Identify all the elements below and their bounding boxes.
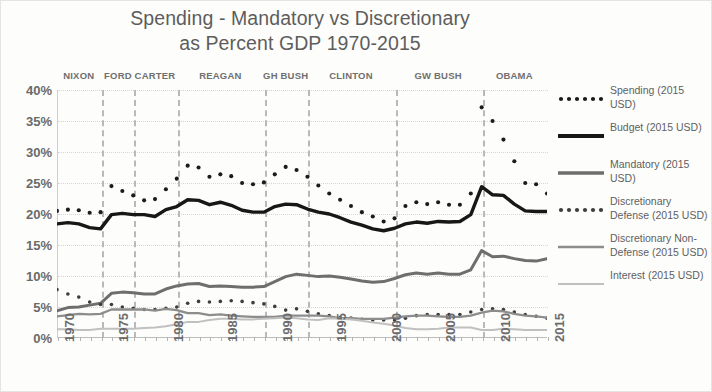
president-label: GW BUSH bbox=[414, 70, 461, 81]
chart-title-line2: as Percent GDP 1970-2015 bbox=[40, 31, 560, 56]
legend-marker-solid-midgray bbox=[558, 237, 604, 243]
legend-item[interactable]: Mandatory (2015 USD) bbox=[558, 158, 708, 186]
y-axis-tick-label: 20% bbox=[8, 208, 52, 221]
series-budget-2015-usd bbox=[57, 187, 547, 231]
y-axis-tick-label: 25% bbox=[8, 177, 52, 190]
president-label: OBAMA bbox=[496, 70, 533, 81]
legend-item[interactable]: Spending (2015 USD) bbox=[558, 84, 708, 112]
x-axis-tick-label: 1985 bbox=[225, 313, 240, 342]
legend-marker-dotted-gray bbox=[558, 200, 604, 206]
y-axis-tick-label: 0% bbox=[8, 332, 52, 345]
president-label: NIXON bbox=[63, 70, 94, 81]
x-axis-tick-label: 2005 bbox=[443, 313, 458, 342]
y-axis-tick-label: 15% bbox=[8, 239, 52, 252]
president-label: CLINTON bbox=[329, 70, 372, 81]
legend-item[interactable]: Budget (2015 USD) bbox=[558, 121, 708, 149]
legend-label: Spending (2015 USD) bbox=[610, 84, 708, 111]
y-axis-tick-label: 35% bbox=[8, 115, 52, 128]
legend-marker-dotted-black bbox=[558, 89, 604, 95]
legend-label: Budget (2015 USD) bbox=[610, 121, 708, 135]
chart-title-line1: Spending - Mandatory vs Discretionary bbox=[130, 7, 470, 29]
x-axis-tick-label: 1970 bbox=[62, 313, 77, 342]
chart-legend: Spending (2015 USD)Budget (2015 USD)Mand… bbox=[558, 84, 708, 306]
series-mandatory-2015-usd bbox=[57, 251, 547, 311]
x-axis-tick-label: 2015 bbox=[552, 313, 567, 342]
y-axis-tick-label: 5% bbox=[8, 301, 52, 314]
y-axis-tick-label: 40% bbox=[8, 84, 52, 97]
x-axis-tick-label: 2000 bbox=[389, 313, 404, 342]
x-axis-tick-label: 1990 bbox=[280, 313, 295, 342]
legend-item[interactable]: Discretionary Defense (2015 USD) bbox=[558, 195, 708, 223]
x-axis-tick-label: 2010 bbox=[498, 313, 513, 342]
x-axis-tick-label: 1980 bbox=[171, 313, 186, 342]
legend-marker-solid-gray bbox=[558, 163, 604, 169]
x-axis-tick-label: 1995 bbox=[334, 313, 349, 342]
legend-marker-solid-lightgray bbox=[558, 274, 604, 280]
legend-item[interactable]: Discretionary Non-Defense (2015 USD) bbox=[558, 232, 708, 260]
y-axis-tick-label: 30% bbox=[8, 146, 52, 159]
legend-marker-solid-black bbox=[558, 126, 604, 132]
president-label: REAGAN bbox=[199, 70, 241, 81]
legend-label: Discretionary Non-Defense (2015 USD) bbox=[610, 232, 708, 259]
chart-image: Spending - Mandatory vs Discretionary as… bbox=[0, 0, 712, 392]
president-label: CARTER bbox=[135, 70, 176, 81]
legend-label: Mandatory (2015 USD) bbox=[610, 158, 708, 185]
chart-title: Spending - Mandatory vs Discretionary as… bbox=[40, 6, 560, 56]
x-axis-tick-label: 1975 bbox=[116, 313, 131, 342]
legend-item[interactable]: Interest (2015 USD) bbox=[558, 269, 708, 297]
president-label: GH BUSH bbox=[263, 70, 308, 81]
plot-area bbox=[57, 90, 547, 338]
legend-label: Discretionary Defense (2015 USD) bbox=[610, 195, 708, 222]
president-band: NIXONFORDCARTERREAGANGH BUSHCLINTONGW BU… bbox=[57, 70, 557, 84]
y-axis-tick-label: 10% bbox=[8, 270, 52, 283]
president-label: FORD bbox=[104, 70, 132, 81]
y-axis-labels: 0%5%10%15%20%25%30%35%40% bbox=[4, 0, 52, 392]
legend-label: Interest (2015 USD) bbox=[610, 269, 708, 283]
x-axis-labels: 1970197519801985199019952000200520102015 bbox=[57, 340, 557, 392]
chart-series-canvas bbox=[57, 90, 547, 338]
